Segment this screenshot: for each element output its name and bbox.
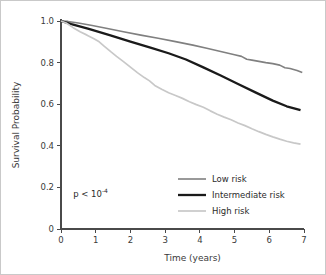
curve-high-risk <box>61 21 301 144</box>
legend-label-intermediate-risk: Intermediate risk <box>212 190 285 200</box>
svg-text:0: 0 <box>49 224 54 234</box>
svg-text:0.2: 0.2 <box>40 182 54 192</box>
svg-text:1.0: 1.0 <box>40 16 54 26</box>
svg-text:5: 5 <box>232 235 237 245</box>
legend-label-low-risk: Low risk <box>212 174 247 184</box>
svg-text:4: 4 <box>197 235 202 245</box>
survival-curve-figure: 00.20.40.60.81.0 01234567 Survival Proba… <box>0 0 326 275</box>
curve-low-risk <box>61 21 302 73</box>
svg-text:0.8: 0.8 <box>40 58 54 68</box>
svg-text:3: 3 <box>162 235 167 245</box>
p-value-text: p < 10-4 <box>73 187 108 199</box>
y-axis-ticks: 00.20.40.60.81.0 <box>40 16 61 234</box>
x-axis-ticks: 01234567 <box>58 229 306 245</box>
chart-legend: Low riskIntermediate riskHigh risk <box>178 174 285 216</box>
y-axis-title: Survival Probability <box>11 81 21 168</box>
x-axis-title: Time (years) <box>163 253 221 263</box>
plot-canvas: 00.20.40.60.81.0 01234567 Survival Proba… <box>1 1 326 275</box>
legend-label-high-risk: High risk <box>212 206 250 216</box>
p-value-annotation: p < 10-4 <box>73 187 108 199</box>
svg-text:6: 6 <box>267 235 272 245</box>
svg-text:2: 2 <box>128 235 133 245</box>
svg-text:0.4: 0.4 <box>40 141 54 151</box>
svg-text:0.6: 0.6 <box>40 99 54 109</box>
survival-curves <box>61 21 302 144</box>
svg-text:0: 0 <box>58 235 63 245</box>
svg-text:7: 7 <box>301 235 306 245</box>
svg-text:1: 1 <box>93 235 98 245</box>
